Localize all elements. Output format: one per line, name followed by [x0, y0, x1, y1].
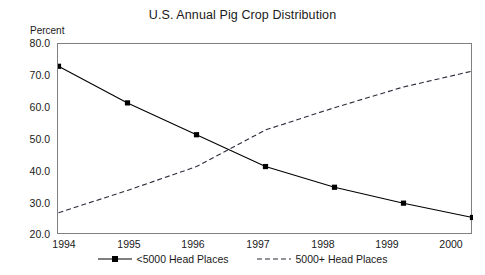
plot-svg [58, 44, 473, 235]
y-tick-label: 60.0 [4, 101, 50, 113]
legend-swatch-dashed-icon [257, 254, 291, 264]
y-tick-label: 40.0 [4, 165, 50, 177]
y-tick-label: 80.0 [4, 37, 50, 49]
y-tick-label: 70.0 [4, 69, 50, 81]
x-tick-label: 1997 [228, 238, 288, 250]
chart-figure: U.S. Annual Pig Crop Distribution Percen… [0, 0, 485, 275]
data-point-marker [194, 132, 199, 137]
x-tick-label: 1995 [99, 238, 159, 250]
series-line-under5000-head-places [59, 66, 473, 217]
plot-area [57, 43, 472, 234]
data-point-marker [470, 215, 473, 220]
chart-legend: <5000 Head Places 5000+ Head Places [0, 253, 485, 265]
legend-item-5000plus-head-places: 5000+ Head Places [257, 253, 388, 265]
x-tick-label: 1999 [357, 238, 417, 250]
data-point-marker [58, 64, 61, 69]
legend-swatch-solid-square-icon [98, 254, 132, 264]
series-markers-under5000-head-places [58, 64, 473, 220]
data-point-marker [263, 164, 268, 169]
data-point-marker [332, 185, 337, 190]
x-tick-label: 1998 [293, 238, 353, 250]
legend-label: 5000+ Head Places [296, 253, 388, 265]
y-tick-label: 50.0 [4, 133, 50, 145]
series-line-5000plus-head-places [59, 71, 473, 213]
x-tick-label: 1994 [34, 238, 94, 250]
y-tick-label: 30.0 [4, 197, 50, 209]
y-axis-label: Percent [30, 25, 64, 36]
x-tick-label: 1996 [163, 238, 223, 250]
data-point-marker [401, 201, 406, 206]
legend-label: <5000 Head Places [137, 253, 229, 265]
legend-item-under5000-head-places: <5000 Head Places [98, 253, 229, 265]
chart-title: U.S. Annual Pig Crop Distribution [0, 8, 485, 22]
x-tick-label: 2000 [421, 238, 481, 250]
data-point-marker [125, 100, 130, 105]
